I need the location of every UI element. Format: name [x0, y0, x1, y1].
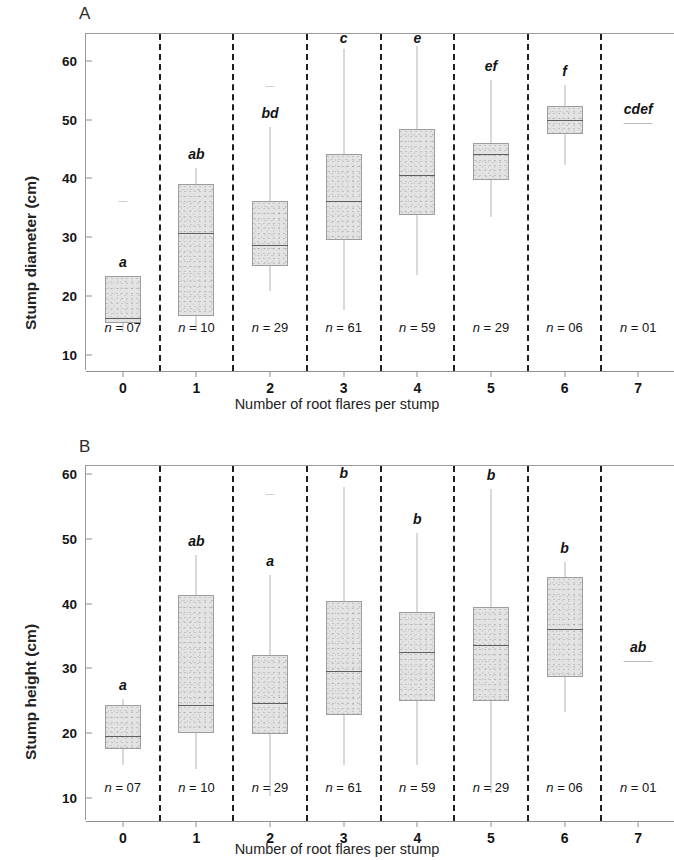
x-axis-tick-label: 2 [266, 380, 274, 396]
y-axis-tick-mark [86, 474, 92, 475]
median-line [399, 652, 435, 653]
x-axis-tick-mark [270, 821, 271, 827]
whisker-lower [122, 749, 123, 766]
category-divider [453, 34, 455, 371]
sample-size-label: n = 01 [620, 320, 657, 335]
box [547, 577, 583, 677]
x-axis-line [86, 821, 674, 822]
whisker-lower [417, 701, 418, 765]
significance-letter: b [560, 540, 569, 556]
significance-letter: ef [485, 58, 497, 74]
box [473, 143, 509, 180]
y-axis-tick-label: 30 [40, 661, 86, 676]
x-axis-tick-label: 3 [340, 380, 348, 396]
panel-b-plot-area: 10203040506001234567an = 07abn = 10—an =… [85, 465, 674, 820]
whisker-upper [196, 168, 197, 184]
panel-a-y-axis-label: Stump diameter (cm) [22, 176, 40, 330]
box [105, 276, 141, 324]
whisker-upper [490, 80, 491, 143]
whisker-upper [564, 562, 565, 578]
y-axis-tick-label: 40 [40, 171, 86, 186]
x-axis-tick-mark [490, 821, 491, 827]
sample-size-label: n = 59 [399, 780, 436, 795]
x-axis-tick-mark [343, 371, 344, 377]
x-axis-tick-label: 6 [561, 380, 569, 396]
box [252, 655, 288, 733]
panel-b: B Stump height (cm) 10203040506001234567… [0, 430, 674, 860]
sample-size-label: n = 59 [399, 320, 436, 335]
category-divider [527, 34, 529, 371]
median-line [326, 201, 362, 202]
y-axis-tick-label: 50 [40, 532, 86, 547]
whisker-upper [417, 533, 418, 613]
whisker-lower [564, 677, 565, 713]
whisker-lower [564, 134, 565, 165]
panel-b-letter: B [79, 437, 91, 457]
median-line [547, 120, 583, 121]
x-axis-tick-mark [564, 821, 565, 827]
box [326, 154, 362, 240]
y-axis-tick-label: 30 [40, 230, 86, 245]
whisker-upper [270, 575, 271, 655]
box [473, 607, 509, 701]
x-axis-tick-mark [638, 371, 639, 377]
y-axis-tick-mark [86, 119, 92, 120]
y-axis-tick-mark [86, 603, 92, 604]
whisker-upper [196, 555, 197, 595]
significance-letter: ab [630, 639, 646, 655]
y-axis-tick-label: 20 [40, 726, 86, 741]
panel-a-x-axis-label: Number of root flares per stump [0, 396, 674, 412]
whisker-lower [343, 240, 344, 310]
panel-a-plot-area: 10203040506001234567—an = 07abn = 10—bdn… [85, 33, 674, 370]
significance-letter: a [119, 254, 127, 270]
median-line [252, 703, 288, 704]
y-axis-tick-mark [86, 354, 92, 355]
x-axis-tick-mark [564, 371, 565, 377]
whisker-upper [417, 46, 418, 129]
category-divider [380, 34, 382, 371]
whisker-upper [343, 49, 344, 154]
single-observation-line [624, 123, 653, 124]
whisker-lower [343, 715, 344, 765]
x-axis-tick-label: 0 [119, 380, 127, 396]
y-axis-tick-mark [86, 539, 92, 540]
category-divider [306, 34, 308, 371]
x-axis-tick-mark [270, 371, 271, 377]
significance-letter: c [340, 30, 348, 46]
category-divider [232, 34, 234, 371]
whisker-lower [490, 701, 491, 793]
whisker-upper [564, 85, 565, 106]
category-divider [380, 466, 382, 821]
y-axis-tick-mark [86, 295, 92, 296]
whisker-lower [417, 215, 418, 275]
whisker-lower [270, 266, 271, 291]
median-line [178, 705, 214, 706]
x-axis-tick-mark [122, 371, 123, 377]
median-line [178, 233, 214, 234]
panel-a-letter: A [79, 4, 91, 24]
y-axis-tick-mark [86, 733, 92, 734]
sample-size-label: n = 06 [546, 320, 583, 335]
y-axis-tick-label: 60 [40, 467, 86, 482]
significance-letter: f [562, 63, 567, 79]
significance-letter: ab [188, 533, 204, 549]
y-axis-tick-label: 10 [40, 790, 86, 805]
sample-size-label: n = 10 [178, 320, 215, 335]
y-axis-tick-mark [86, 668, 92, 669]
significance-letter: b [413, 511, 422, 527]
outlier-marker: — [118, 197, 127, 206]
outlier-marker: — [266, 81, 275, 90]
median-line [326, 671, 362, 672]
box [105, 705, 141, 748]
y-axis-tick-label: 20 [40, 288, 86, 303]
sample-size-label: n = 07 [105, 780, 142, 795]
box [178, 595, 214, 733]
whisker-upper [343, 487, 344, 601]
y-axis-tick-label: 10 [40, 347, 86, 362]
median-line [399, 175, 435, 176]
panel-b-y-axis-label: Stump height (cm) [22, 624, 40, 760]
category-divider [453, 466, 455, 821]
box [178, 184, 214, 316]
category-divider [306, 466, 308, 821]
significance-letter: cdef [624, 101, 653, 117]
